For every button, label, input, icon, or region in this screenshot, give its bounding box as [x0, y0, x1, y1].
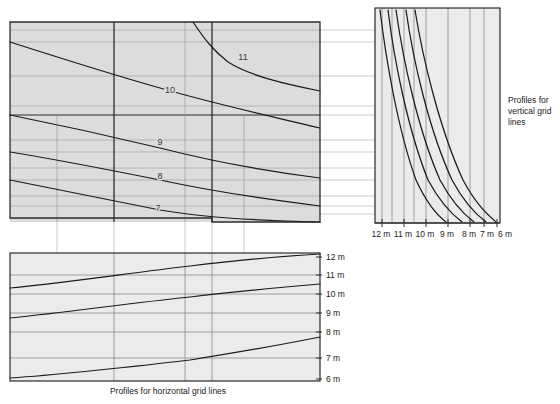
bottom-axis-label-12m: 12 m — [326, 252, 345, 262]
bottom-axis-label-7m: 7 m — [326, 353, 340, 363]
right-panel: 12 m 11 m 10 m 9 m 8 m 7 m 6 m Profiles … — [372, 8, 552, 239]
right-axis-label-6m: 6 m — [498, 229, 512, 239]
bottom-axis-label-9m: 9 m — [326, 308, 340, 318]
nomograph-figure: 11 10 9 8 7 — [0, 0, 560, 404]
bottom-panel: 12 m 11 m 10 m 9 m 8 m 7 m 6 m Profiles … — [10, 252, 345, 396]
bottom-axis-label-11m: 11 m — [326, 270, 344, 280]
right-panel-axis-labels: 12 m 11 m 10 m 9 m 8 m 7 m 6 m — [372, 229, 513, 239]
right-panel-background — [375, 8, 500, 223]
right-caption-line-1: Profiles for — [508, 95, 549, 105]
right-axis-label-12m: 12 m — [372, 229, 391, 239]
right-axis-label-9m: 9 m — [440, 229, 454, 239]
bottom-panel-background — [10, 253, 320, 381]
bottom-panel-axis-labels: 12 m 11 m 10 m 9 m 8 m 7 m 6 m — [326, 252, 345, 384]
bottom-axis-label-6m: 6 m — [326, 374, 340, 384]
contour-label-8: 8 — [157, 171, 162, 181]
contour-label-9: 9 — [157, 137, 162, 147]
right-caption-line-3: lines — [508, 117, 525, 127]
right-caption-line-2: vertical grid — [508, 106, 552, 116]
right-panel-caption: Profiles for vertical grid lines — [508, 95, 552, 127]
contour-label-10: 10 — [165, 85, 175, 95]
bottom-axis-label-10m: 10 m — [326, 289, 345, 299]
bottom-axis-label-8m: 8 m — [326, 327, 340, 337]
contour-label-7: 7 — [155, 203, 160, 213]
bottom-panel-caption: Profiles for horizontal grid lines — [110, 386, 226, 396]
main-panel-background — [10, 22, 320, 222]
contour-label-11: 11 — [238, 52, 247, 62]
figure-canvas: 11 10 9 8 7 — [0, 0, 560, 404]
right-axis-label-10m: 10 m — [416, 229, 435, 239]
right-axis-label-11m: 11 m — [394, 229, 412, 239]
main-panel: 11 10 9 8 7 — [10, 22, 320, 222]
right-axis-label-8m: 8 m — [462, 229, 476, 239]
right-axis-label-7m: 7 m — [480, 229, 494, 239]
